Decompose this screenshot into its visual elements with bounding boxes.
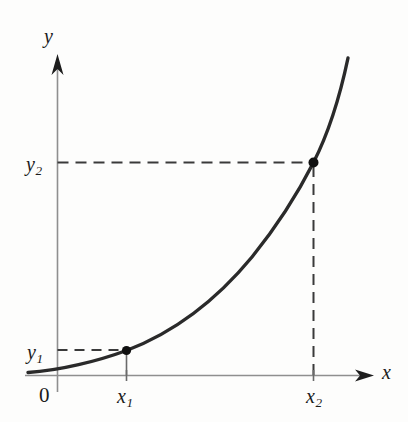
exponential-curve [28,58,348,373]
graph-canvas [0,0,408,422]
x-axis [25,370,374,382]
origin-label: 0 [39,385,50,406]
y-tick-label-y1: y1 [27,342,43,365]
x-tick-label-x1: x1 [117,386,133,409]
y2-subscript: 2 [35,163,42,178]
y-axis-label: y [44,26,53,46]
y1-subscript: 1 [36,351,43,366]
data-point-1 [122,346,131,355]
x2-subscript: 2 [315,395,322,410]
x1-subscript: 1 [126,395,133,410]
x-tick-label-x2: x2 [306,386,322,409]
x2-base: x [306,385,315,407]
y-tick-label-y2: y2 [26,154,42,177]
y2-base: y [26,153,35,175]
y-axis [52,54,64,392]
data-point-2 [309,158,319,168]
x1-base: x [117,385,126,407]
y1-base: y [27,341,36,363]
exponential-graph-figure: y x 0 y1 y2 x1 x2 [0,0,408,422]
x-axis-label: x [382,362,391,382]
